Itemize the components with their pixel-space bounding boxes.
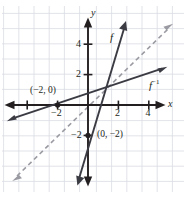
- x-tick-label-2: 2: [115, 108, 120, 118]
- curve-label-f-inverse: f−1: [149, 79, 160, 91]
- graph-figure: x y −2 2 4 4 2 −2 (−2, 0) (0, −2) f f−1: [0, 0, 186, 198]
- x-tick-label-4: 4: [146, 108, 151, 118]
- curve-label-f: f: [110, 32, 113, 43]
- x-tick-label-minus2: −2: [51, 108, 62, 118]
- x-axis-label: x: [168, 99, 172, 109]
- y-axis-arrow-top: [84, 18, 92, 28]
- coordinate-plane: [0, 0, 186, 198]
- y-tick-label-4: 4: [76, 39, 81, 49]
- curve-label-f-inverse-exponent: −1: [152, 78, 159, 86]
- f-arrow-top: [119, 21, 127, 31]
- f-arrow-bottom: [76, 176, 84, 186]
- x-axis-arrow-right: [156, 101, 166, 109]
- identity-arrow-end: [163, 24, 173, 30]
- x-axis-arrow-left: [5, 101, 15, 109]
- y-axis-label: y: [91, 8, 95, 18]
- marked-point-0-minus2: [85, 133, 90, 138]
- f-inverse-arrow-end: [157, 67, 167, 73]
- curve-f: [76, 21, 127, 186]
- y-tick-label-2: 2: [76, 69, 81, 79]
- point-label-minus2-0: (−2, 0): [30, 86, 56, 96]
- point-label-0-minus2: (0, −2): [97, 130, 123, 140]
- y-tick-label-minus2: −2: [71, 130, 82, 140]
